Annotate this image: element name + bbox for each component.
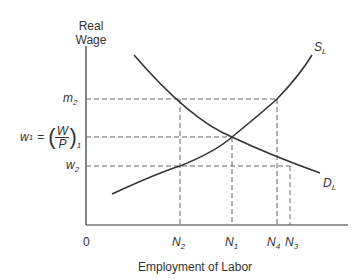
tick-w1: w1 = ( W P )1 [20, 124, 81, 150]
x-axis-label: Employment of Labor [138, 260, 252, 274]
tick-n3: N3 [285, 235, 298, 251]
y-axis-label: Real Wage [74, 19, 108, 47]
tick-n1: N1 [225, 235, 238, 251]
demand-label: DL [323, 176, 336, 192]
tick-m2: m2 [63, 91, 77, 107]
demand-curve [134, 55, 320, 173]
tick-n4: N4 [267, 235, 280, 251]
supply-label: SL [314, 40, 326, 56]
supply-curve [112, 55, 312, 194]
tick-n2: N2 [172, 235, 185, 251]
y-axis-label-line2: Wage [74, 33, 108, 47]
y-axis-label-line1: Real [74, 19, 108, 33]
origin-label: 0 [83, 235, 90, 249]
tick-w2: w2 [66, 158, 79, 174]
